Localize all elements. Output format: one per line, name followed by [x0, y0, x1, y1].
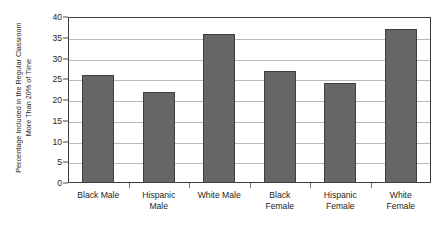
x-axis-category-label: HispanicFemale [310, 190, 371, 212]
bar[interactable] [385, 29, 417, 183]
bar[interactable] [324, 83, 356, 183]
y-axis-tick-label: 20 [44, 96, 62, 105]
x-axis-category-labels: Black MaleHispanicMaleWhite MaleBlackFem… [68, 190, 431, 230]
x-axis-category-label-line: Female [371, 201, 432, 212]
x-axis-category-label-line: Female [250, 201, 311, 212]
x-axis-category-label: BlackFemale [250, 190, 311, 212]
y-axis-title-line-2: More Than 20% of Time [23, 22, 33, 172]
y-axis-title: Percentage Included in the Regular Class… [8, 0, 38, 195]
x-axis-tick [250, 183, 251, 188]
bar-slot [68, 17, 129, 183]
x-axis-tick [371, 183, 372, 188]
bar[interactable] [203, 34, 235, 183]
x-axis-category-label-line: Hispanic [310, 190, 371, 201]
bar[interactable] [82, 75, 114, 183]
bar[interactable] [143, 92, 175, 183]
bar-slot [250, 17, 311, 183]
y-axis-tick-label: 40 [44, 13, 62, 22]
x-axis-category-label-line: White Male [189, 190, 250, 201]
x-axis-category-label: Black Male [68, 190, 129, 201]
x-axis-tick [189, 183, 190, 188]
x-axis-category-label-line: Male [129, 201, 190, 212]
bars-layer [68, 17, 431, 183]
bar-slot [310, 17, 371, 183]
x-axis-tick [310, 183, 311, 188]
x-axis-tick [129, 183, 130, 188]
bar-slot [371, 17, 432, 183]
y-axis-tick-label: 10 [44, 137, 62, 146]
x-axis-category-label-line: White [371, 190, 432, 201]
y-axis-tick-label: 5 [44, 158, 62, 167]
x-axis-tick-marks [68, 183, 431, 188]
x-axis-category-label-line: Black Male [68, 190, 129, 201]
x-axis-category-label: WhiteFemale [371, 190, 432, 212]
x-axis-category-label: White Male [189, 190, 250, 201]
y-axis-title-line-1: Percentage Included in the Regular Class… [13, 22, 23, 172]
y-axis-tick-labels: 4035302520151050 [44, 17, 62, 183]
x-axis-category-label-line: Black [250, 190, 311, 201]
bar-slot [129, 17, 190, 183]
y-axis-tick-label: 35 [44, 33, 62, 42]
bar-chart-figure: Percentage Included in the Regular Class… [0, 0, 445, 233]
x-axis-category-label: HispanicMale [129, 190, 190, 212]
x-axis-category-label-line: Hispanic [129, 190, 190, 201]
y-axis-tick-label: 15 [44, 116, 62, 125]
bar-slot [189, 17, 250, 183]
bar[interactable] [264, 71, 296, 183]
x-axis-category-label-line: Female [310, 201, 371, 212]
y-axis-tick-label: 30 [44, 54, 62, 63]
y-axis-tick-label: 0 [44, 179, 62, 188]
y-axis-tick-label: 25 [44, 75, 62, 84]
